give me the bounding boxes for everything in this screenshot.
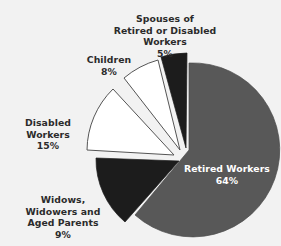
pie-label-children: Children 8% [71, 43, 147, 89]
pie-label-retired-workers-percent: 64% [181, 175, 273, 186]
pie-label-disabled-workers-text: Disabled Workers [25, 117, 71, 139]
pie-label-disabled-workers: Disabled Workers 15% [2, 106, 94, 163]
pie-label-widows: Widows, Widowers and Aged Parents 9% [16, 183, 110, 246]
pie-label-retired-workers-text: Retired Workers [184, 163, 270, 174]
pie-label-retired-workers: Retired Workers 64% [181, 152, 273, 198]
pie-label-children-percent: 8% [71, 66, 147, 77]
pie-label-children-text: Children [87, 54, 131, 65]
pie-chart: Spouses of Retired or Disabled Workers 5… [0, 0, 281, 246]
pie-label-disabled-workers-percent: 15% [2, 140, 94, 151]
pie-label-widows-percent: 9% [16, 229, 110, 240]
pie-label-widows-text: Widows, Widowers and Aged Parents [26, 194, 101, 228]
